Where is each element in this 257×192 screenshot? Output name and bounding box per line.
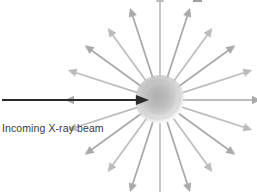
scattered-ray-head-2	[225, 45, 235, 54]
scattered-ray-line-1	[182, 72, 246, 93]
scattered-ray-line-16	[167, 122, 188, 186]
scattered-ray-head-13	[108, 162, 117, 172]
scattered-ray-head-3	[204, 28, 213, 38]
clipped-text-artifact-icon	[193, 0, 202, 2]
scattered-ray-line-18	[179, 114, 230, 151]
scattered-ray-head-4	[183, 8, 191, 18]
scattered-ray-line-2	[179, 49, 230, 86]
scattered-ray-head-6	[129, 8, 137, 18]
figure-canvas: Incoming X-ray beam	[0, 0, 257, 192]
scattered-ray-head-14	[129, 182, 137, 192]
incoming-beam-label: Incoming X-ray beam	[2, 122, 104, 135]
scattered-ray-head-17	[204, 162, 213, 172]
xray-scattering-diagram	[0, 0, 257, 192]
scattered-ray-head-0	[252, 96, 257, 104]
scattered-ray-line-19	[182, 107, 246, 128]
scattered-ray-line-4	[167, 14, 188, 78]
incoming-beam-arrow	[2, 95, 149, 105]
scattered-ray-head-19	[242, 123, 252, 131]
scattered-ray-head-7	[108, 28, 117, 38]
scattered-ray-head-5	[156, 0, 164, 2]
scattered-ray-head-12	[85, 146, 95, 155]
scattered-ray-head-1	[242, 69, 252, 77]
scattered-ray-head-16	[183, 182, 191, 192]
scattered-ray-head-9	[68, 69, 78, 77]
scattered-ray-head-8	[85, 45, 95, 54]
scattered-ray-line-14	[132, 122, 153, 186]
scattered-ray-line-8	[90, 49, 141, 86]
scattered-ray-line-9	[74, 72, 138, 93]
scattered-ray-head-18	[225, 146, 235, 155]
scattered-ray-line-6	[132, 14, 153, 78]
